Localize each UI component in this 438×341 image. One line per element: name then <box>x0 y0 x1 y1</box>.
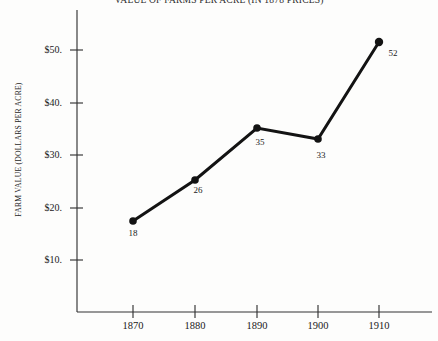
y-tick-label: $30. <box>10 149 62 160</box>
data-point <box>129 217 137 225</box>
data-point <box>253 124 261 132</box>
x-tick-label: 1890 <box>233 320 281 331</box>
data-point <box>314 135 322 143</box>
x-tick-label: 1870 <box>109 320 157 331</box>
data-point <box>191 176 199 184</box>
y-tick-label: $20. <box>10 202 62 213</box>
chart-figure: VALUE OF FARMS PER ACRE (IN 1878 PRICES)… <box>0 0 438 341</box>
x-tick-label: 1900 <box>294 320 342 331</box>
x-tick-label: 1910 <box>355 320 403 331</box>
data-point-label: 52 <box>381 48 405 58</box>
y-tick-label: $10. <box>10 254 62 265</box>
plot-area <box>0 0 438 341</box>
data-point-label: 35 <box>248 137 272 147</box>
data-point <box>375 38 383 46</box>
data-point-label: 26 <box>186 185 210 195</box>
x-tick-label: 1880 <box>171 320 219 331</box>
y-tick-label: $50. <box>10 44 62 55</box>
y-tick-label: $40. <box>10 97 62 108</box>
data-point-label: 18 <box>121 228 145 238</box>
data-point-label: 33 <box>309 150 333 160</box>
